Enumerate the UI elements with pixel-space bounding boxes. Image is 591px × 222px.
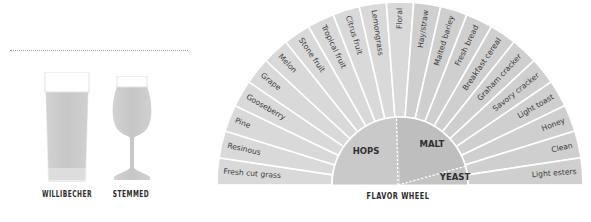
hub-label-malt: MALT [420,139,445,149]
flavor-wheel: Fresh cut grassResinousPineGooseberryGra… [0,0,591,222]
flavor-wheel-caption: FLAVOR WHEEL [367,192,430,201]
hub-label-hops: HOPS [353,146,380,156]
hub-label-yeast: YEAST [439,172,471,182]
wedge-label: Floral [395,8,404,29]
